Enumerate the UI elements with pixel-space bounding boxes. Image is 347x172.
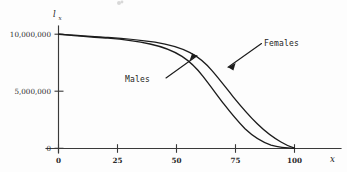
survivorship-curve-figure: 10,000,000 5,000,000 0 0 25 50 75 100 l … xyxy=(0,0,347,172)
annotation-males-label: Males xyxy=(125,75,150,84)
y-tick-label-10000000: 10,000,000 xyxy=(10,30,52,39)
scan-artifacts xyxy=(117,1,123,5)
curve-females xyxy=(59,34,295,148)
x-axis-title: x xyxy=(330,154,335,164)
x-tick-label-0: 0 xyxy=(56,156,61,165)
annotation-females: Females xyxy=(228,39,299,70)
x-tick-label-50: 50 xyxy=(171,156,181,165)
x-tick-label-25: 25 xyxy=(112,156,122,165)
y-tick-label-0: 0 xyxy=(46,144,51,153)
curve-males xyxy=(59,34,295,148)
y-axis-title-subscript: x xyxy=(59,15,63,21)
x-tick-label-75: 75 xyxy=(230,156,240,165)
y-axis-title: l xyxy=(53,9,56,19)
chart-canvas: 10,000,000 5,000,000 0 0 25 50 75 100 l … xyxy=(0,0,347,172)
x-tick-label-100: 100 xyxy=(287,156,302,165)
annotation-males: Males xyxy=(125,53,197,84)
annotation-females-label: Females xyxy=(264,39,299,48)
y-tick-label-5000000: 5,000,000 xyxy=(14,87,51,96)
